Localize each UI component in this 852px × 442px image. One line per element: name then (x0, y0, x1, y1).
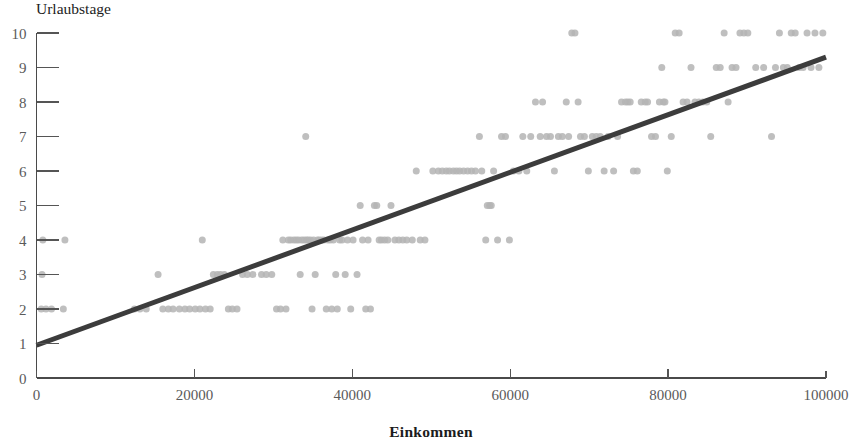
data-point (502, 133, 509, 140)
data-point (707, 133, 714, 140)
data-point (367, 306, 374, 313)
data-point (354, 271, 361, 278)
data-point (234, 306, 241, 313)
data-point (490, 168, 497, 175)
data-point (207, 306, 214, 313)
data-point (342, 271, 349, 278)
plot-background (36, 33, 826, 378)
data-point (664, 168, 671, 175)
data-point (297, 271, 304, 278)
y-tick-label: 0 (19, 371, 27, 387)
data-point (668, 133, 675, 140)
data-point (565, 133, 572, 140)
data-point (688, 64, 695, 71)
x-tick-label: 100000 (804, 387, 849, 403)
y-tick-label: 10 (12, 26, 27, 42)
data-point (551, 168, 558, 175)
data-point (804, 30, 811, 37)
data-point (350, 237, 357, 244)
y-tick-label: 3 (19, 267, 27, 283)
data-point (199, 237, 206, 244)
data-point (634, 168, 641, 175)
data-point (547, 133, 554, 140)
data-point (658, 64, 665, 71)
data-point (717, 64, 724, 71)
data-point (365, 237, 372, 244)
data-point (384, 237, 391, 244)
data-point (627, 99, 634, 106)
data-point (760, 64, 767, 71)
data-point (312, 271, 319, 278)
data-point (676, 30, 683, 37)
data-point (581, 133, 588, 140)
data-point (776, 30, 783, 37)
data-point (744, 30, 751, 37)
data-point (268, 271, 275, 278)
data-point (519, 133, 526, 140)
data-point (585, 168, 592, 175)
y-axis-title: Urlaubstage (36, 0, 111, 17)
scatter-chart-figure: 012345678910 020000400006000080000100000… (0, 0, 852, 442)
data-point (413, 168, 420, 175)
data-point (527, 133, 534, 140)
data-point (476, 133, 483, 140)
y-tick-label: 7 (19, 129, 27, 145)
data-point (357, 202, 364, 209)
data-point (155, 271, 162, 278)
data-point (575, 99, 582, 106)
data-point (249, 271, 256, 278)
y-tick-label: 4 (19, 233, 27, 249)
x-axis-title: Einkommen (389, 423, 473, 440)
data-point (792, 30, 799, 37)
y-tick-label: 6 (19, 164, 27, 180)
y-tick-label: 8 (19, 95, 27, 111)
data-point (725, 99, 732, 106)
data-point (494, 237, 501, 244)
x-tick-label: 0 (33, 387, 41, 403)
data-point (811, 30, 818, 37)
data-point (61, 237, 68, 244)
chart-canvas: 012345678910 020000400006000080000100000… (0, 0, 852, 442)
data-point (421, 237, 428, 244)
x-tick-label: 60000 (491, 387, 529, 403)
data-point (60, 306, 67, 313)
data-point (373, 202, 380, 209)
data-point (772, 64, 779, 71)
data-point (733, 64, 740, 71)
data-point (661, 99, 668, 106)
data-point (610, 168, 617, 175)
data-point (472, 168, 479, 175)
data-point (309, 306, 316, 313)
x-tick-label: 20000 (176, 387, 214, 403)
data-point (537, 133, 544, 140)
data-point (752, 64, 759, 71)
data-point (334, 306, 341, 313)
plot-area (36, 30, 826, 379)
x-tick-label: 80000 (649, 387, 687, 403)
data-point (644, 99, 651, 106)
data-point (506, 237, 513, 244)
data-point (559, 133, 566, 140)
x-tick-label: 40000 (334, 387, 372, 403)
data-point (478, 168, 485, 175)
data-point (409, 237, 416, 244)
data-point (815, 64, 822, 71)
y-tick-label: 2 (19, 302, 27, 318)
data-point (302, 133, 309, 140)
data-point (819, 30, 826, 37)
data-point (539, 99, 546, 106)
data-point (482, 237, 489, 244)
data-point (170, 306, 177, 313)
data-point (563, 99, 570, 106)
data-point (282, 306, 289, 313)
data-point (768, 133, 775, 140)
data-point (332, 271, 339, 278)
y-tick-label: 1 (19, 336, 27, 352)
data-point (347, 306, 354, 313)
data-point (488, 202, 495, 209)
y-tick-label: 9 (19, 60, 27, 76)
data-point (601, 168, 608, 175)
data-point (532, 99, 539, 106)
data-point (387, 202, 394, 209)
y-tick-label: 5 (19, 198, 27, 214)
